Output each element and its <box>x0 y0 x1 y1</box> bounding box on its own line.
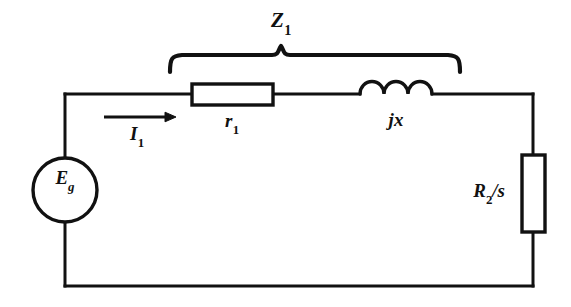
label-r2s-suffix: /s <box>492 180 505 201</box>
label-r2s-base: R <box>473 180 486 201</box>
label-r1-base: r <box>225 110 232 131</box>
circuit-diagram: Z1 r1 jx I1 Eg R2/s <box>0 0 571 307</box>
label-reactance-jx: jx <box>389 110 404 129</box>
label-eg-base: E <box>55 167 68 188</box>
resistor-r2-over-s-symbol <box>522 155 545 232</box>
label-rotor-resistance-r2s: R2/s <box>473 181 505 205</box>
impedance-brace-symbol <box>170 46 460 72</box>
resistor-r1-symbol <box>192 84 273 105</box>
label-eg-subscript: g <box>68 179 74 194</box>
label-z1-subscript: 1 <box>284 22 291 38</box>
label-z1-base: Z <box>271 8 284 32</box>
inductor-jx-symbol <box>360 82 432 95</box>
current-arrow-i1-symbol <box>104 112 176 122</box>
label-resistor-r1: r1 <box>225 111 239 135</box>
label-r1-subscript: 1 <box>233 122 239 137</box>
label-jx-base: jx <box>389 109 404 130</box>
label-current-i1: I1 <box>130 124 144 148</box>
label-impedance-z1: Z1 <box>271 10 291 34</box>
label-source-eg: Eg <box>55 168 74 192</box>
circuit-schematic-canvas <box>0 0 571 307</box>
label-i1-base: I <box>130 123 137 144</box>
label-r2s-subscript: 2 <box>486 192 492 207</box>
label-i1-subscript: 1 <box>138 135 144 150</box>
